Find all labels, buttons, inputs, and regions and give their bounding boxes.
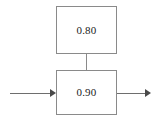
output-arrow-line: [117, 93, 146, 94]
input-arrow: [10, 88, 57, 99]
diagram-canvas: 0.80 0.90: [0, 0, 161, 121]
diagram-block-top[interactable]: 0.80: [56, 6, 117, 54]
connector-line-top-to-bottom: [86, 54, 87, 71]
output-arrow: [117, 88, 152, 99]
arrowhead-right-icon: [50, 89, 56, 97]
arrowhead-right-icon: [145, 89, 151, 97]
diagram-block-top-label: 0.80: [76, 25, 96, 36]
diagram-block-bottom-label: 0.90: [76, 87, 96, 98]
diagram-block-bottom[interactable]: 0.90: [56, 70, 117, 115]
input-arrow-line: [10, 93, 51, 94]
